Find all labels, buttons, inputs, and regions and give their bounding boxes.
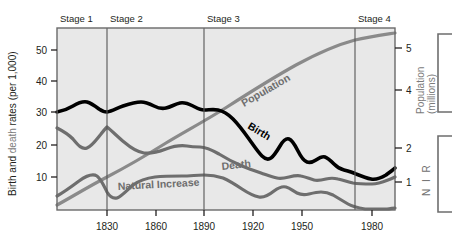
bottom-axis-ticks: [107, 210, 372, 216]
demographic-transition-figure: 50 40 30 20 10 Birth and death rates (pe…: [0, 0, 466, 249]
x-tick-label-1920: 1920: [242, 221, 265, 232]
right-axis-population-subtitle: (millions): [426, 74, 437, 114]
nir-tick-label-1: 1: [406, 177, 412, 188]
stage-label-1: Stage 1: [60, 13, 93, 24]
x-tick-label-1950: 1950: [291, 221, 314, 232]
left-axis-title-part1: Birth and: [7, 153, 18, 196]
x-tick-label-1830: 1830: [96, 221, 119, 232]
left-axis-title: Birth and death rates (per 1,000): [7, 51, 18, 196]
population-tick-label-5: 5: [406, 43, 412, 54]
right-axis-nir-title: N I R: [421, 163, 432, 196]
left-tick-label-50: 50: [36, 45, 48, 56]
plot-area-background: [57, 28, 395, 210]
nir-tick-label-2: 2: [406, 143, 412, 154]
stage-label-4: Stage 4: [358, 13, 391, 24]
population-title-line2: (millions): [426, 74, 437, 114]
left-tick-label-20: 20: [36, 140, 48, 151]
x-tick-label-1980: 1980: [361, 221, 384, 232]
left-tick-label-10: 10: [36, 172, 48, 183]
svg-text:Birth and death rates (per 1,0: Birth and death rates (per 1,000): [7, 51, 18, 196]
nir-axis-bracket: [438, 136, 452, 212]
population-axis-bracket: [438, 34, 452, 112]
population-title-line1: Population: [415, 67, 426, 114]
left-tick-label-40: 40: [36, 76, 48, 87]
x-tick-label-1860: 1860: [145, 221, 168, 232]
stage-label-2: Stage 2: [110, 13, 143, 24]
right-axis-population-ticks: [395, 48, 402, 90]
stage-label-3: Stage 3: [207, 13, 240, 24]
nir-title: N I R: [421, 163, 432, 196]
population-tick-label-4: 4: [406, 85, 412, 96]
left-tick-label-30: 30: [36, 107, 48, 118]
right-axis-population-title: Population: [415, 67, 426, 114]
x-tick-label-1890: 1890: [193, 221, 216, 232]
left-axis-title-death-word: death: [7, 128, 18, 153]
left-axis-title-part2: rates (per 1,000): [7, 51, 18, 128]
